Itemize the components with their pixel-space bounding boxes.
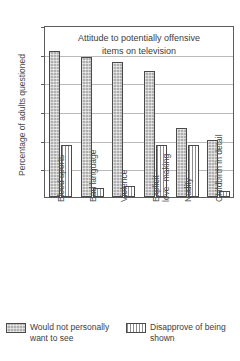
x-axis-label: Childbirth in detail [214, 134, 224, 202]
legend-label: Would not personally want to see [30, 322, 126, 344]
y-tick-mark [41, 84, 45, 85]
gridline [45, 84, 233, 85]
x-axis-label: Blood sports [56, 155, 66, 202]
x-axis-label: Nudity [183, 178, 193, 202]
x-axis-label: Bad language [88, 150, 98, 202]
chart-legend: Would not personally want to seeDisappro… [6, 322, 238, 356]
chart-title-line-1: Attitude to potentially offensive [45, 32, 233, 45]
y-tick-mark [41, 142, 45, 143]
x-axis-label: Explicit love- making [151, 154, 171, 202]
y-tick-mark [41, 113, 45, 114]
chart-title: Attitude to potentially offensive items … [45, 32, 233, 57]
gridline [45, 113, 233, 114]
gridline [45, 170, 233, 171]
y-axis-title: Percentage of adults questioned [17, 25, 27, 205]
legend-swatch [6, 323, 26, 333]
plot-area: Attitude to potentially offensive items … [44, 26, 234, 198]
gridline [45, 142, 233, 143]
y-tick-mark [41, 170, 45, 171]
x-axis-label: Violence [119, 170, 129, 202]
y-tick-mark [41, 56, 45, 57]
chart-figure: Percentage of adults questioned Attitude… [0, 0, 240, 361]
legend-label: Disapprove of being shown [150, 322, 240, 344]
legend-swatch [126, 323, 146, 333]
y-tick-mark [41, 27, 45, 28]
gridline [45, 56, 233, 57]
